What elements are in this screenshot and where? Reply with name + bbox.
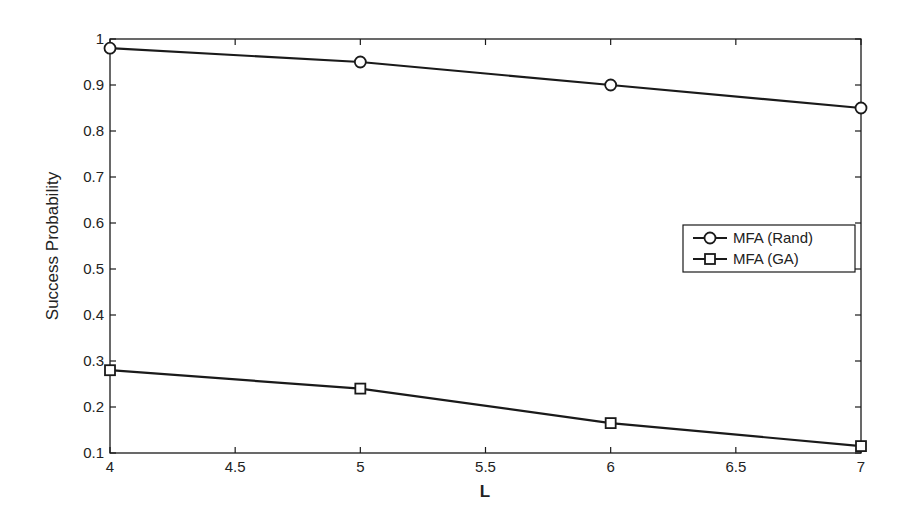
square-marker-icon: [856, 441, 866, 451]
y-tick-label: 0.4: [83, 306, 104, 323]
x-tick-label: 6.5: [725, 458, 746, 475]
square-marker-icon: [705, 254, 715, 264]
circle-marker-icon: [856, 103, 867, 114]
circle-marker-icon: [105, 43, 116, 54]
y-tick-label: 0.2: [83, 398, 104, 415]
circle-marker-icon: [355, 57, 366, 68]
square-marker-icon: [355, 384, 365, 394]
y-tick-label: 1: [96, 30, 104, 47]
line-chart: 44.555.566.570.10.20.30.40.50.60.70.80.9…: [0, 0, 904, 526]
y-tick-label: 0.1: [83, 444, 104, 461]
series-mfa-ga: [105, 365, 866, 451]
y-tick-label: 0.3: [83, 352, 104, 369]
y-tick-label: 0.7: [83, 168, 104, 185]
x-tick-label: 6: [606, 458, 614, 475]
x-tick-label: 4: [106, 458, 114, 475]
circle-marker-icon: [605, 80, 616, 91]
legend-label: MFA (Rand): [733, 229, 813, 246]
x-tick-label: 7: [857, 458, 865, 475]
x-tick-label: 5: [356, 458, 364, 475]
series-line: [110, 370, 861, 446]
series-line: [110, 48, 861, 108]
square-marker-icon: [606, 418, 616, 428]
circle-marker-icon: [705, 233, 716, 244]
x-axis-title: L: [480, 482, 490, 501]
y-tick-label: 0.5: [83, 260, 104, 277]
series-mfa-rand: [105, 43, 867, 114]
legend: MFA (Rand)MFA (GA): [683, 225, 855, 272]
x-tick-label: 4.5: [225, 458, 246, 475]
y-axis-title: Success Probability: [43, 171, 62, 320]
y-tick-label: 0.8: [83, 122, 104, 139]
legend-label: MFA (GA): [733, 250, 799, 267]
y-tick-label: 0.9: [83, 76, 104, 93]
y-tick-label: 0.6: [83, 214, 104, 231]
x-tick-label: 5.5: [475, 458, 496, 475]
square-marker-icon: [105, 365, 115, 375]
